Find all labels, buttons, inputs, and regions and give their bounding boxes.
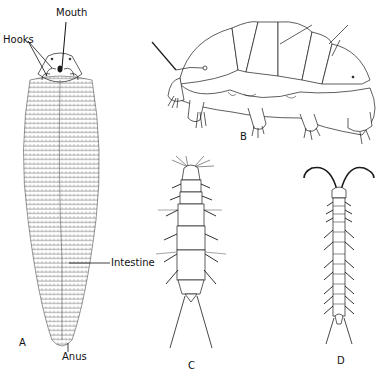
panel-label-a: A (19, 338, 26, 348)
label-hooks: Hooks (3, 35, 34, 45)
label-intestine: Intestine (111, 258, 155, 268)
panel-label-d: D (337, 356, 345, 366)
label-mouth: Mouth (56, 8, 87, 18)
label-anus: Anus (62, 352, 87, 362)
illustration-canvas (0, 0, 387, 378)
specimen-a (23, 22, 110, 352)
specimen-b (152, 22, 375, 144)
specimen-c (156, 156, 226, 348)
panel-label-b: B (240, 132, 247, 142)
specimen-d (304, 167, 374, 344)
panel-label-c: C (188, 361, 195, 371)
